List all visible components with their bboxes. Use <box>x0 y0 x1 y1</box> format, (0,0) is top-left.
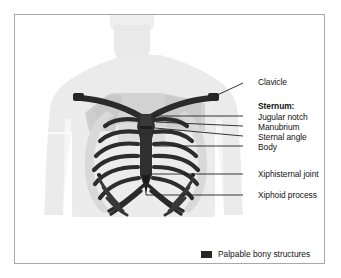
label-clavicle: Clavicle <box>258 78 287 87</box>
figure-frame: Clavicle Sternum: Jugular notch Manubriu… <box>14 14 325 264</box>
sternum-body-shape <box>141 129 151 175</box>
label-manubrium: Manubrium <box>258 123 299 132</box>
label-jugular-notch: Jugular notch <box>258 113 308 122</box>
label-body: Body <box>258 143 277 152</box>
label-sternum-heading: Sternum: <box>258 102 294 111</box>
manubrium-shape <box>140 115 152 126</box>
sternal-angle-shape <box>140 126 152 129</box>
label-xiphisternal-joint: Xiphisternal joint <box>258 170 319 179</box>
acromial-end-left <box>73 93 84 101</box>
label-xiphoid-process: Xiphoid process <box>258 191 317 200</box>
legend: Palpable bony structures <box>201 249 310 259</box>
label-sternal-angle: Sternal angle <box>258 133 307 142</box>
legend-label: Palpable bony structures <box>218 249 310 259</box>
legend-swatch-palpable-bone <box>201 251 212 258</box>
